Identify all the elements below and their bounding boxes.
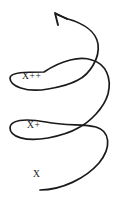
arrowhead-icon (55, 13, 67, 25)
loop-label-x: X (33, 170, 40, 180)
loop-label-x-plus-plus: X++ (22, 72, 41, 82)
spiral-curve-svg (0, 0, 119, 206)
spiral-diagram-figure: X++ X+ X (0, 0, 119, 206)
loop-label-x-plus: X+ (27, 121, 40, 131)
spiral-curve-path (10, 15, 109, 190)
